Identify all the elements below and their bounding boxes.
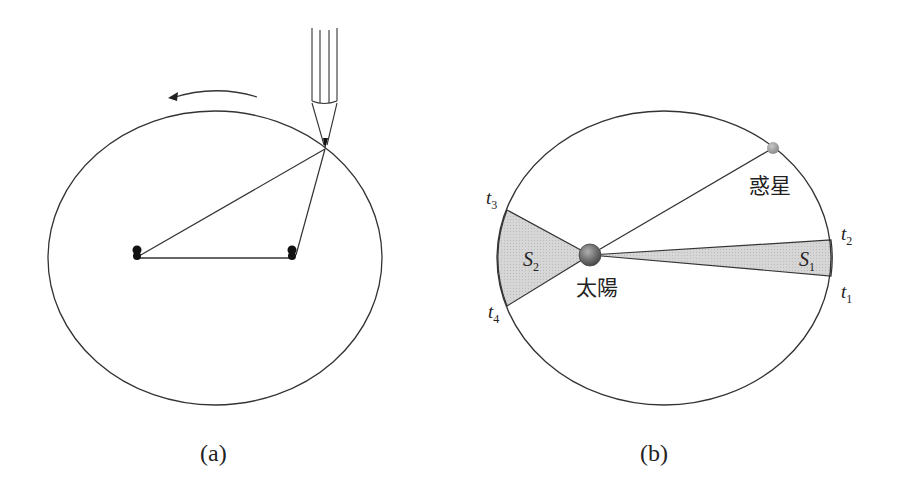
label-t2: t2 <box>841 223 852 248</box>
rotation-arrow-icon <box>172 91 257 98</box>
kepler-diagram: (a) 惑星 太陽 S1 S2 t1 t2 t3 t4 (b) <box>0 0 898 492</box>
sun-icon <box>579 244 601 266</box>
pin-right-icon <box>288 246 297 261</box>
string-left <box>139 149 325 256</box>
caption-b: (b) <box>640 440 668 466</box>
label-t1: t1 <box>841 281 852 306</box>
panel-a: (a) <box>48 28 382 466</box>
label-planet: 惑星 <box>749 174 791 198</box>
radius-vector <box>590 148 773 255</box>
caption-a: (a) <box>200 440 227 466</box>
panel-b: 惑星 太陽 S1 S2 t1 t2 t3 t4 (b) <box>486 111 852 466</box>
pin-left-icon <box>133 246 142 261</box>
sector-s1 <box>590 240 832 276</box>
string-right <box>296 149 325 255</box>
arrowhead-icon <box>168 92 178 101</box>
label-sun: 太陽 <box>576 276 618 300</box>
label-t3: t3 <box>486 187 497 212</box>
label-t4: t4 <box>488 301 499 326</box>
pencil-icon <box>312 28 337 149</box>
planet-icon <box>767 142 779 154</box>
